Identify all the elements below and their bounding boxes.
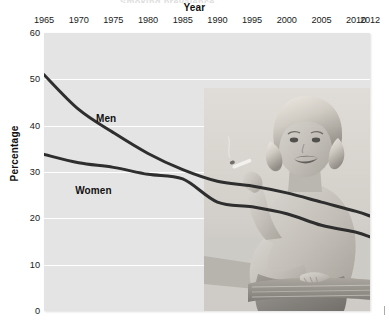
data-line-women xyxy=(44,154,370,236)
x-tick-label-1990: 1990 xyxy=(207,15,227,25)
figure-root: Smoking prevalence Year Percentage 19651… xyxy=(0,0,389,329)
x-tick-label-2000: 2000 xyxy=(277,15,297,25)
x-tick-label-1980: 1980 xyxy=(138,15,158,25)
x-tick-label-2005: 2005 xyxy=(311,15,331,25)
x-tick-label-2012: 2012 xyxy=(360,15,380,25)
series-label-women: Women xyxy=(75,185,111,196)
x-tick-label-1995: 1995 xyxy=(242,15,262,25)
y-tick-label-50: 50 xyxy=(30,74,40,84)
y-tick-label-10: 10 xyxy=(30,260,40,270)
x-axis-tick-labels: 1965197019751980198519901995200020052010… xyxy=(0,15,389,28)
data-lines xyxy=(44,33,370,311)
x-axis-title: Year xyxy=(0,2,389,13)
plot-area: Men Women xyxy=(44,33,370,311)
x-tick-label-1985: 1985 xyxy=(173,15,193,25)
y-tick-label-20: 20 xyxy=(30,213,40,223)
y-tick-label-0: 0 xyxy=(35,306,40,316)
x-tick-label-1975: 1975 xyxy=(103,15,123,25)
series-label-men: Men xyxy=(96,113,116,124)
y-tick-label-40: 40 xyxy=(30,121,40,131)
y-axis-tick-labels: 0102030405060 xyxy=(0,0,44,329)
y-tick-label-60: 60 xyxy=(30,28,40,38)
x-tick-label-1970: 1970 xyxy=(69,15,89,25)
corner-tick-mark xyxy=(384,306,385,315)
y-tick-label-30: 30 xyxy=(30,167,40,177)
